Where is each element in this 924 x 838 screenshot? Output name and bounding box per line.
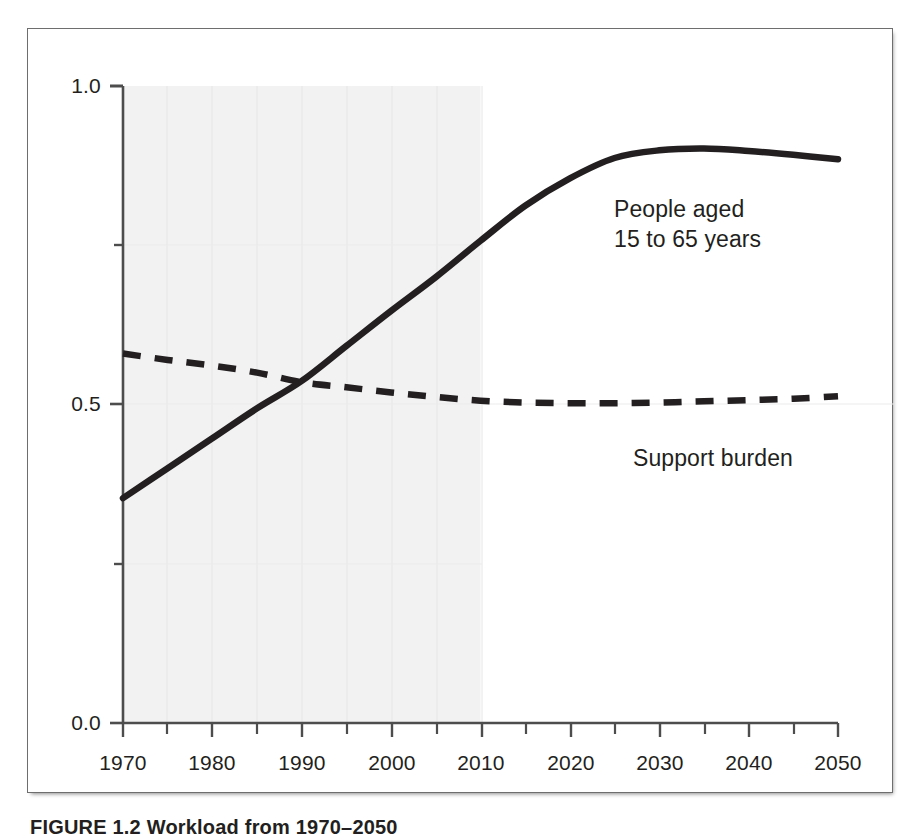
figure-caption: FIGURE 1.2 Workload from 1970–2050 [30, 816, 398, 838]
y-tick-label-1: 1.0 [31, 74, 101, 98]
x-axis-major-ticks [123, 723, 838, 737]
x-tick-label-2040: 2040 [709, 751, 789, 775]
y-tick-label-3: 0.0 [31, 711, 101, 735]
y-axis-major-ticks [110, 86, 123, 723]
x-axis-minor-ticks [167, 723, 794, 734]
annotation-support-burden: Support burden [633, 444, 793, 473]
x-tick-label-2000: 2000 [352, 751, 432, 775]
x-tick-label-1980: 1980 [172, 751, 252, 775]
plot-area: 1.0 0.5 0.0 1970 1980 1990 2000 2010 202… [28, 29, 894, 794]
x-tick-label-1970: 1970 [83, 751, 163, 775]
x-tick-label-1990: 1990 [262, 751, 342, 775]
x-tick-label-2010: 2010 [441, 751, 521, 775]
chart-canvas [28, 29, 894, 794]
x-tick-label-2050: 2050 [798, 751, 878, 775]
x-tick-label-2030: 2030 [620, 751, 700, 775]
figure-frame: 1.0 0.5 0.0 1970 1980 1990 2000 2010 202… [27, 28, 893, 793]
y-tick-label-2: 0.5 [31, 392, 101, 416]
x-tick-label-2020: 2020 [531, 751, 611, 775]
annotation-people-aged-line2: 15 to 65 years [614, 225, 761, 254]
annotation-people-aged-line1: People aged [614, 195, 744, 224]
